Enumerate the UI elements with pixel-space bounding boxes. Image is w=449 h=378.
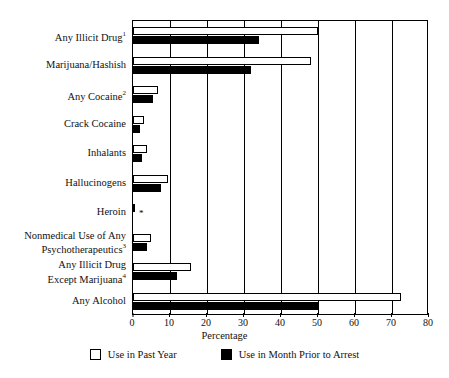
x-tick-label-30: 30 xyxy=(238,317,248,328)
bar-past-year xyxy=(133,57,311,65)
filled-square-icon xyxy=(221,349,232,360)
category-axis-labels: Any Illicit Drug1Marijuana/HashishAny Co… xyxy=(0,20,130,315)
bar-row: * xyxy=(133,198,427,228)
x-tick-label-80: 80 xyxy=(423,317,433,328)
bar-past-year xyxy=(133,263,191,271)
x-tick-label-60: 60 xyxy=(349,317,359,328)
category-label: Crack Cocaine xyxy=(64,118,126,130)
category-label: Nonmedical Use of AnyPsychotherapeutics3 xyxy=(24,230,126,256)
x-tick-label-70: 70 xyxy=(386,317,396,328)
bar-past-year xyxy=(133,145,147,153)
tick-mark xyxy=(132,313,133,317)
tick-mark xyxy=(169,313,170,317)
asterisk-annotation: * xyxy=(139,209,144,218)
tick-mark xyxy=(428,313,429,317)
bar-row xyxy=(133,139,427,169)
bar-past-year xyxy=(133,293,401,301)
tick-mark xyxy=(354,313,355,317)
tick-mark xyxy=(317,313,318,317)
tick-mark xyxy=(391,313,392,317)
tick-mark xyxy=(280,313,281,317)
bar-row xyxy=(133,110,427,140)
bar-past-year xyxy=(133,116,144,124)
category-label: Marijuana/Hashish xyxy=(46,59,126,71)
category-label: Hallucinogens xyxy=(65,177,126,189)
bar-past-year xyxy=(133,27,318,35)
x-tick-label-10: 10 xyxy=(164,317,174,328)
bar-past-year xyxy=(133,175,168,183)
bar-row xyxy=(133,257,427,287)
chart-legend: Use in Past Year Use in Month Prior to A… xyxy=(0,349,449,360)
bar-row xyxy=(133,287,427,317)
legend-item-past-year: Use in Past Year xyxy=(90,349,177,360)
x-tick-label-50: 50 xyxy=(312,317,322,328)
bar-month-prior xyxy=(133,125,140,133)
category-label: Any Cocaine2 xyxy=(67,88,126,102)
bar-past-year xyxy=(133,204,135,212)
x-tick-label-40: 40 xyxy=(275,317,285,328)
x-tick-label-0: 0 xyxy=(130,317,135,328)
category-label: Any Alcohol xyxy=(72,295,126,307)
bar-past-year xyxy=(133,234,151,242)
bar-row xyxy=(133,21,427,51)
plot-area: * xyxy=(132,20,428,315)
category-label: Inhalants xyxy=(88,147,127,159)
bar-month-prior xyxy=(133,243,147,251)
x-axis-title: Percentage xyxy=(0,330,449,341)
bar-chart: Any Illicit Drug1Marijuana/HashishAny Co… xyxy=(0,0,449,378)
bar-month-prior xyxy=(133,184,161,192)
legend-item-month-prior: Use in Month Prior to Arrest xyxy=(221,349,359,360)
category-label: Any Illicit Drug1 xyxy=(55,29,126,43)
open-square-icon xyxy=(90,349,101,360)
bar-month-prior xyxy=(133,302,318,310)
bar-month-prior xyxy=(133,272,177,280)
legend-label-month-prior: Use in Month Prior to Arrest xyxy=(239,349,359,360)
legend-label-past-year: Use in Past Year xyxy=(108,349,177,360)
tick-mark xyxy=(206,313,207,317)
bar-month-prior xyxy=(133,66,251,74)
tick-mark xyxy=(243,313,244,317)
bar-month-prior xyxy=(133,154,142,162)
bar-row xyxy=(133,51,427,81)
bar-rows: * xyxy=(133,21,427,314)
bar-row xyxy=(133,169,427,199)
bar-past-year xyxy=(133,86,158,94)
bar-month-prior xyxy=(133,95,153,103)
x-axis-ticks: 01020304050607080 xyxy=(132,317,428,331)
bar-month-prior: * xyxy=(133,213,134,221)
x-tick-label-20: 20 xyxy=(201,317,211,328)
category-label: Heroin xyxy=(97,206,126,218)
bar-row xyxy=(133,228,427,258)
category-label: Any Illicit DrugExcept Marijuana4 xyxy=(48,259,126,285)
bar-row xyxy=(133,80,427,110)
bar-month-prior xyxy=(133,36,259,44)
